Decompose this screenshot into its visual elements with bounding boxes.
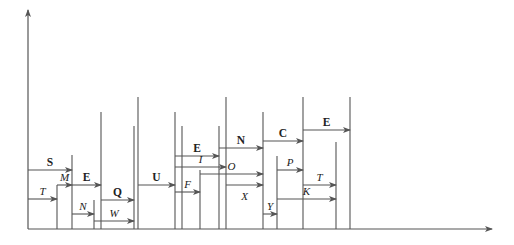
arrow-t: T: [303, 171, 336, 185]
arrow-label: T: [316, 171, 323, 183]
arrow-label: X: [240, 190, 249, 202]
arrow-label: O: [228, 160, 236, 172]
arrow-label: F: [183, 178, 191, 190]
timeline-diagram: STMENQWUEIFONXCYPKET: [0, 0, 514, 245]
arrow-label: Y: [267, 200, 275, 212]
arrow-x: X: [226, 185, 263, 202]
arrows: STMENQWUEIFONXCYPKET: [28, 116, 350, 221]
arrow-label: N: [237, 134, 246, 146]
axes: [28, 10, 492, 229]
arrow-y: Y: [263, 200, 277, 214]
arrow-label: M: [59, 171, 70, 183]
arrow-label: I: [198, 153, 204, 165]
arrow-label: W: [109, 207, 119, 219]
vertical-lines: [57, 97, 350, 229]
arrow-n: N: [72, 200, 94, 214]
arrow-label: E: [323, 116, 331, 128]
arrow-k: K: [277, 185, 336, 199]
arrow-label: C: [279, 127, 287, 139]
arrow-f: F: [175, 178, 200, 192]
arrow-label: U: [152, 171, 161, 183]
arrow-label: T: [39, 185, 46, 197]
arrow-label: P: [286, 156, 294, 168]
arrow-i: I: [175, 153, 226, 167]
arrow-label: K: [302, 185, 311, 197]
arrow-e: E: [72, 171, 101, 185]
arrow-c: C: [263, 127, 303, 141]
arrow-s: S: [28, 156, 72, 170]
arrow-label: Q: [113, 186, 122, 198]
arrow-u: U: [138, 171, 175, 185]
arrow-q: Q: [101, 186, 134, 200]
arrow-p: P: [277, 156, 303, 170]
arrow-label: N: [78, 200, 87, 212]
arrow-w: W: [94, 207, 134, 221]
arrow-e: E: [303, 116, 350, 130]
arrow-label: S: [47, 156, 53, 168]
arrow-m: M: [57, 171, 72, 185]
arrow-t: T: [28, 185, 57, 199]
arrow-label: E: [83, 171, 91, 183]
